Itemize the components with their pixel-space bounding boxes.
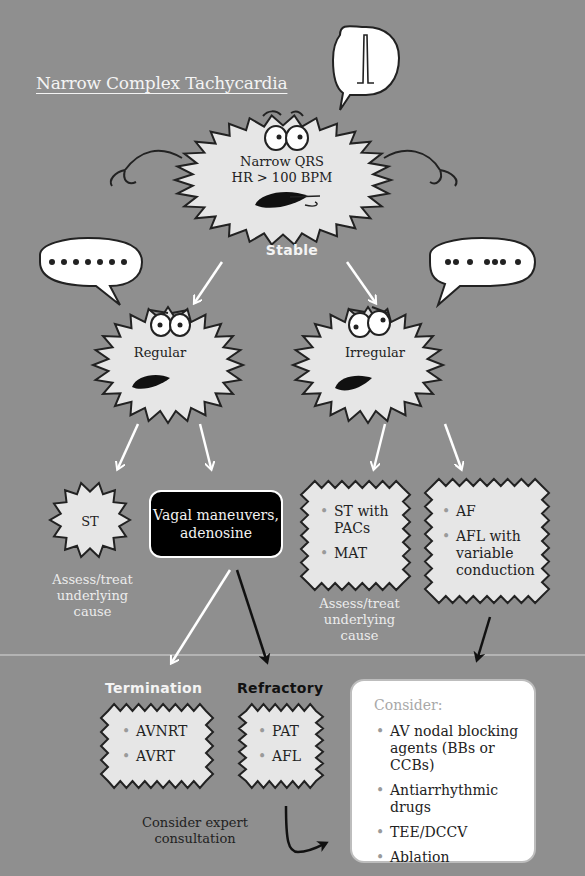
vagal-line1: Vagal maneuvers,	[153, 506, 279, 524]
list-item: PAT	[256, 723, 316, 740]
list-item: AV nodal blocking agents (BBs or CCBs)	[374, 723, 524, 774]
list-item: Antiarrhythmic drugs	[374, 782, 524, 816]
list-item: AF	[440, 503, 535, 520]
arrow-to-vagal	[200, 424, 211, 468]
regular-label: Regular	[120, 345, 200, 361]
root-line2: HR > 100 BPM	[222, 170, 342, 186]
dot-icon	[467, 259, 473, 265]
list-item: TEE/DCCV	[374, 824, 524, 841]
dot-icon	[453, 259, 459, 265]
vagal-line2: adenosine	[153, 524, 279, 542]
arrow-to-irregular	[347, 262, 375, 302]
speech-bubble-irregular	[430, 238, 535, 305]
irregular-left-list: ST with PACs MAT	[318, 503, 398, 570]
list-item: ST with PACs	[318, 503, 398, 537]
dot-icon	[97, 259, 103, 265]
arrow-to-st	[118, 424, 138, 468]
dot-icon	[49, 259, 55, 265]
termination-label: Termination	[105, 680, 205, 696]
irregular-left-note: Assess/treat underlying cause	[312, 596, 407, 644]
page-title: Narrow Complex Tachycardia	[36, 73, 287, 93]
dot-icon	[85, 259, 91, 265]
dot-icon	[121, 259, 127, 265]
st-note-line: Assess/treat	[45, 572, 140, 588]
irregular-label: Irregular	[335, 345, 415, 361]
arrow-to-regular	[195, 262, 222, 302]
st-label: ST	[70, 514, 110, 530]
refractory-note: Consider expert consultation	[135, 815, 255, 847]
list-item: AVNRT	[120, 723, 200, 740]
dot-icon	[500, 259, 506, 265]
arrow-to-st-pacs	[374, 424, 385, 468]
dot-icon	[445, 259, 451, 265]
st-note: Assess/treat underlying cause	[45, 572, 140, 620]
dot-icon	[492, 259, 498, 265]
list-item: MAT	[318, 545, 398, 562]
note-line: Consider expert	[135, 815, 255, 831]
termination-list: AVNRT AVRT	[120, 723, 200, 773]
st-note-line: cause	[45, 604, 140, 620]
arrow-refractory-to-consider	[286, 806, 326, 852]
st-note-line: underlying	[45, 588, 140, 604]
dot-icon	[109, 259, 115, 265]
arrow-to-refractory	[237, 570, 267, 662]
speech-bubble-regular	[40, 238, 142, 305]
list-item: AVRT	[120, 748, 200, 765]
list-item: AFL	[256, 748, 316, 765]
speech-bubble-qrs	[333, 26, 399, 110]
consider-heading: Consider:	[374, 697, 524, 713]
arrow-to-termination	[172, 570, 230, 662]
note-line: consultation	[135, 831, 255, 847]
refractory-list: PAT AFL	[256, 723, 316, 773]
irregular-right-list: AF AFL with variable conduction	[440, 503, 535, 587]
dot-icon	[515, 259, 521, 265]
arrow-to-af	[445, 424, 461, 468]
note-line: cause	[312, 628, 407, 644]
root-line1: Narrow QRS	[222, 154, 342, 170]
root-node-text: Narrow QRS HR > 100 BPM	[222, 154, 342, 186]
dot-icon	[61, 259, 67, 265]
arrow-to-consider	[477, 617, 490, 660]
consider-box: Consider: AV nodal blocking agents (BBs …	[350, 679, 536, 863]
consider-list: AV nodal blocking agents (BBs or CCBs) A…	[374, 723, 524, 866]
note-line: underlying	[312, 612, 407, 628]
list-item: Ablation	[374, 849, 524, 866]
note-line: Assess/treat	[312, 596, 407, 612]
branch-label-stable: Stable	[262, 242, 322, 258]
vagal-adenosine-box: Vagal maneuvers, adenosine	[149, 490, 283, 558]
refractory-label: Refractory	[237, 680, 337, 696]
list-item: AFL with variable conduction	[440, 528, 535, 579]
dot-icon	[484, 259, 490, 265]
dot-icon	[73, 259, 79, 265]
